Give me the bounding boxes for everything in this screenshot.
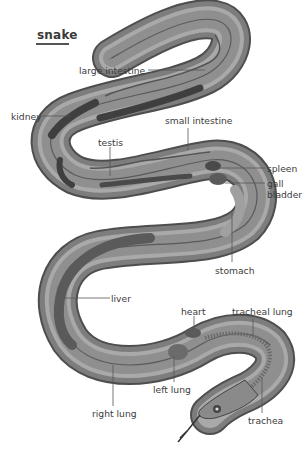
label-small-intestine: small intestine [165, 115, 232, 126]
label-heart: heart [181, 306, 206, 317]
label-gall: gall [267, 178, 284, 189]
label-large-intestine: large intestine [79, 65, 145, 76]
diagram-title: snake [37, 28, 78, 42]
left-lung-organ [168, 344, 188, 360]
label-kidney: kidney [11, 111, 42, 122]
snake-anatomy-diagram: snake large intestine kidney small intes… [0, 0, 307, 460]
label-tracheal-lung: tracheal lung [232, 306, 293, 317]
label-trachea: trachea [248, 415, 283, 426]
spleen-organ [205, 161, 221, 171]
label-liver: liver [111, 293, 131, 304]
label-right-lung: right lung [92, 408, 137, 419]
gall-bladder-organ [209, 173, 227, 185]
title-underline [36, 43, 69, 45]
label-spleen: spleen [267, 163, 297, 174]
heart-organ [185, 328, 201, 338]
label-left-lung: left lung [153, 384, 191, 395]
label-stomach: stomach [215, 265, 254, 276]
label-bladder: bladder [267, 189, 302, 200]
label-testis: testis [98, 137, 123, 148]
